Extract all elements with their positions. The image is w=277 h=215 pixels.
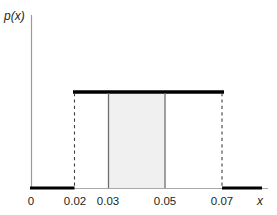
x-tick-label-003: 0.03: [97, 195, 119, 208]
probability-density-figure: p(x) x 0 0.02 0.03 0.05 0.07: [0, 0, 277, 215]
y-axis-label: p(x): [4, 9, 25, 23]
x-tick-label-0: 0: [28, 195, 34, 208]
x-tick-label-007: 0.07: [211, 195, 233, 208]
x-tick-label-005: 0.05: [154, 195, 176, 208]
x-axis-label: x: [257, 194, 263, 208]
shaded-probability-region: [109, 94, 166, 189]
plot-canvas: [0, 0, 277, 215]
x-tick-label-002: 0.02: [64, 195, 86, 208]
